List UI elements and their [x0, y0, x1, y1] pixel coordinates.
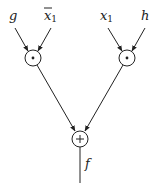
edge-h-to-and-right [132, 28, 145, 51]
edge-xbar1-to-and-left [38, 28, 51, 51]
input-label-h: h [141, 8, 149, 23]
input-label-g: g [9, 8, 17, 23]
or-node [72, 131, 88, 147]
input-label-xbar1: x1 [44, 8, 57, 24]
and-node-left [25, 50, 41, 66]
svg-text:x1: x1 [44, 8, 57, 24]
edge-and-right-to-or [85, 65, 123, 131]
output-label-f: f [84, 156, 92, 171]
edge-g-to-and-left [15, 28, 28, 51]
circuit-diagram: g x1 x1 h f [0, 0, 159, 183]
input-label-x1: x1 [100, 8, 113, 24]
edge-and-left-to-or [37, 65, 75, 131]
and-node-right [119, 50, 135, 66]
edge-x1-to-and-right [108, 28, 122, 51]
